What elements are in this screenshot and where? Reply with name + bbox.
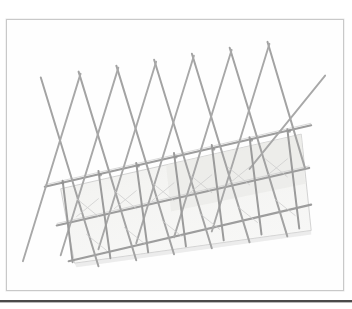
- joint-node: [288, 130, 291, 133]
- joint-node: [137, 164, 140, 167]
- joint-node: [61, 181, 64, 184]
- lattice-trellis-drawing: [7, 20, 343, 290]
- figure-frame: [6, 19, 344, 291]
- joint-node: [212, 147, 215, 150]
- bottom-rule-shadow: [0, 302, 352, 303]
- joint-node: [174, 155, 177, 158]
- page-root: [0, 0, 352, 309]
- joint-node: [250, 139, 253, 142]
- drawing-caption: [0, 0, 1, 1]
- joint-node: [99, 173, 102, 176]
